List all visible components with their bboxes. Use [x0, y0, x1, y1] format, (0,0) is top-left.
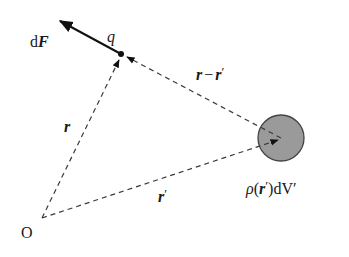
- label-r-minus-r-prime: r−r′: [196, 64, 225, 83]
- label-r-prime: r′: [158, 186, 167, 205]
- diagram-canvas: dF q r−r′ r r′ ρ(r′)dV′ O: [0, 0, 349, 257]
- label-origin: O: [21, 224, 33, 241]
- vector-r: [42, 60, 119, 218]
- label-dF: dF: [30, 33, 49, 50]
- label-r: r: [64, 118, 71, 135]
- vector-r-prime: [42, 140, 278, 218]
- label-density-element: ρ(r′)dV′: [245, 178, 296, 198]
- point-charge-q: [118, 51, 124, 57]
- label-q: q: [107, 28, 115, 46]
